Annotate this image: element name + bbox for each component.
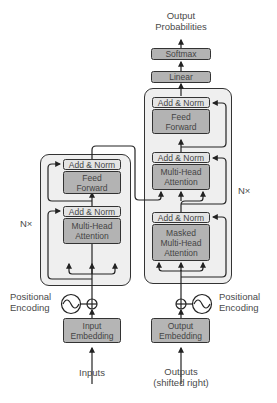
decoder-add-norm-2: Add & Norm bbox=[152, 152, 210, 163]
dpe-line2: Encoding bbox=[219, 302, 260, 313]
oe-line2: Embedding bbox=[159, 331, 202, 341]
attn-line2: Attention bbox=[71, 231, 112, 241]
ff-line1: Feed bbox=[76, 173, 107, 183]
decoder-add-norm-3: Add & Norm bbox=[152, 212, 210, 223]
m-line1: Masked bbox=[160, 228, 201, 238]
decoder-attn-label: Multi-Head Attention bbox=[160, 167, 201, 187]
oe-line1: Output bbox=[159, 321, 202, 331]
decoder-multi-head-attention: Multi-Head Attention bbox=[152, 164, 210, 190]
dpe-line1: Positional bbox=[219, 291, 260, 302]
output-embedding-box: Output Embedding bbox=[151, 318, 210, 343]
output-embedding-label: Output Embedding bbox=[159, 321, 202, 341]
softmax-label: Softmax bbox=[165, 49, 196, 59]
inputs-label: Inputs bbox=[62, 367, 122, 378]
encoder-positional-encoding-label: Positional Encoding bbox=[10, 291, 51, 313]
output-label-line2: Probabilities bbox=[146, 21, 216, 32]
connector-lines bbox=[0, 0, 277, 403]
encoder-add-norm-top-label: Add & Norm bbox=[69, 160, 115, 170]
decoder-positional-encoding-label: Positional Encoding bbox=[219, 291, 260, 313]
outputs-line2: (shifted right) bbox=[146, 377, 216, 388]
dff-line1: Feed bbox=[165, 112, 196, 122]
encoder-feed-forward: Feed Forward bbox=[63, 171, 121, 194]
ie-line1: Input bbox=[70, 321, 113, 331]
encoder-repeat-label: N× bbox=[20, 218, 32, 229]
pe-line1: Positional bbox=[10, 291, 51, 302]
output-probabilities-label: Output Probabilities bbox=[146, 10, 216, 32]
encoder-feed-forward-label: Feed Forward bbox=[76, 173, 107, 193]
decoder-ff-label: Feed Forward bbox=[165, 112, 196, 132]
decoder-add-norm-1: Add & Norm bbox=[152, 97, 210, 108]
pe-line2: Encoding bbox=[10, 302, 51, 313]
m-line3: Attention bbox=[160, 248, 201, 258]
attn-line1: Multi-Head bbox=[71, 221, 112, 231]
linear-label: Linear bbox=[169, 72, 193, 82]
masked-attn-label: Masked Multi-Head Attention bbox=[160, 228, 201, 258]
dattn-line2: Attention bbox=[160, 177, 201, 187]
decoder-repeat-label: N× bbox=[238, 185, 250, 196]
encoder-add-norm-bottom: Add & Norm bbox=[63, 206, 121, 217]
decoder-feed-forward: Feed Forward bbox=[152, 109, 210, 134]
encoder-attention-label: Multi-Head Attention bbox=[71, 221, 112, 241]
outputs-line1: Outputs bbox=[146, 366, 216, 377]
output-label-line1: Output bbox=[146, 10, 216, 21]
m-line2: Multi-Head bbox=[160, 238, 201, 248]
decoder-add-norm-1-label: Add & Norm bbox=[158, 98, 204, 108]
encoder-multi-head-attention: Multi-Head Attention bbox=[63, 218, 121, 244]
decoder-add-norm-2-label: Add & Norm bbox=[158, 153, 204, 163]
outputs-shifted-label: Outputs (shifted right) bbox=[146, 366, 216, 388]
input-embedding-label: Input Embedding bbox=[70, 321, 113, 341]
decoder-add-norm-3-label: Add & Norm bbox=[158, 213, 204, 223]
ie-line2: Embedding bbox=[70, 331, 113, 341]
encoder-add-norm-bottom-label: Add & Norm bbox=[69, 207, 115, 217]
ff-line2: Forward bbox=[76, 183, 107, 193]
dff-line2: Forward bbox=[165, 122, 196, 132]
softmax-box: Softmax bbox=[151, 48, 211, 60]
decoder-masked-attention: Masked Multi-Head Attention bbox=[152, 224, 210, 261]
input-embedding-box: Input Embedding bbox=[63, 318, 121, 343]
linear-box: Linear bbox=[151, 71, 211, 83]
encoder-add-norm-top: Add & Norm bbox=[63, 159, 121, 170]
dattn-line1: Multi-Head bbox=[160, 167, 201, 177]
